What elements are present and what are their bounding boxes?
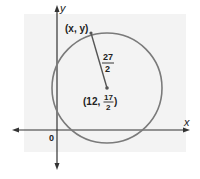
center-label-close: ) (114, 96, 117, 107)
point-on-circle (89, 31, 92, 34)
y-axis-top-arrow (55, 5, 60, 12)
y-axis-label: y (59, 2, 67, 14)
y-axis-bottom-arrow (55, 163, 60, 170)
origin-label: 0 (49, 133, 54, 143)
x-axis-label: x (183, 116, 190, 128)
center-label-open: (12, (83, 96, 100, 107)
point-label: (x, y) (65, 23, 88, 34)
point-label-text: (x, y) (65, 23, 88, 34)
center-label-denominator: 2 (106, 103, 111, 112)
radius-label-denominator: 2 (105, 64, 110, 74)
center-point (105, 86, 109, 90)
coordinate-diagram: y x 0 (x, y) 27 2 (12, 17 2 ) (0, 0, 200, 179)
radius-label-numerator: 27 (103, 52, 113, 62)
x-axis-left-arrow (12, 128, 19, 133)
x-axis-right-arrow (183, 128, 190, 133)
center-label-numerator: 17 (104, 93, 113, 102)
